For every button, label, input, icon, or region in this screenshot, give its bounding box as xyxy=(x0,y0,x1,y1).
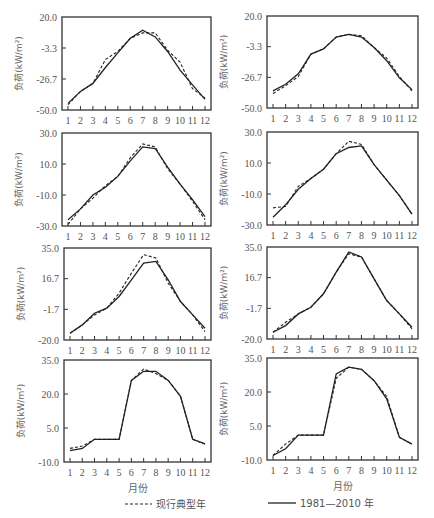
x-tick-label: 7 xyxy=(346,465,351,476)
series-typical-year xyxy=(70,369,205,448)
y-tick-label: -20.0 xyxy=(241,334,262,345)
x-tick-label: 3 xyxy=(296,113,301,124)
x-tick-label: 8 xyxy=(359,344,364,355)
x-tick-label: 12 xyxy=(200,115,210,126)
panel-row1-right: 20.0-3.3-26.7-50.0123456789101112负荷(kW/m… xyxy=(218,11,418,125)
x-tick-label: 6 xyxy=(128,231,133,242)
x-tick-label: 7 xyxy=(346,344,351,355)
y-tick-label: -30.0 xyxy=(241,220,262,231)
series-1981-2010 xyxy=(273,146,412,217)
y-tick-label: 16.7 xyxy=(245,272,263,283)
x-tick-label: 3 xyxy=(92,467,97,478)
x-tick-label: 12 xyxy=(407,344,417,355)
x-tick-label: 11 xyxy=(188,467,198,478)
x-tick-label: 7 xyxy=(141,467,146,478)
panel-row2-right: 30.010.0-10.0-30.0123456789101112负荷(kW/m… xyxy=(218,127,418,242)
y-tick-label: 5.0 xyxy=(250,421,263,432)
y-tick-label: -26.7 xyxy=(36,74,57,85)
x-tick-label: 8 xyxy=(153,115,158,126)
y-tick-label: -10.0 xyxy=(38,457,59,468)
x-tick-label: 4 xyxy=(308,344,313,355)
panel-row4-right: 35.020.05.0-10.0123456789101112负荷(kW/m²)… xyxy=(218,353,418,493)
x-tick-label: 7 xyxy=(140,115,145,126)
x-tick-label: 5 xyxy=(117,467,122,478)
x-tick-label: 2 xyxy=(80,345,85,356)
x-tick-label: 9 xyxy=(165,115,170,126)
y-tick-label: 30.0 xyxy=(40,128,58,139)
x-tick-label: 8 xyxy=(153,467,158,478)
y-tick-label: 20.0 xyxy=(40,12,58,23)
y-tick-label: -1.7 xyxy=(246,303,262,314)
x-tick-label: 6 xyxy=(334,465,339,476)
x-tick-label: 1 xyxy=(66,115,71,126)
x-tick-label: 12 xyxy=(200,467,210,478)
y-tick-label: -30.0 xyxy=(36,221,57,232)
x-tick-label: 5 xyxy=(321,230,326,241)
x-tick-label: 7 xyxy=(140,231,145,242)
y-tick-label: -10.0 xyxy=(241,189,262,200)
x-tick-label: 2 xyxy=(283,465,288,476)
legend-dashed-label: 现行典型年 xyxy=(156,498,206,510)
x-tick-label: 12 xyxy=(407,465,417,476)
plot-frame xyxy=(267,132,418,225)
x-tick-label: 11 xyxy=(395,344,405,355)
x-tick-label: 1 xyxy=(271,230,276,241)
x-tick-label: 5 xyxy=(321,465,326,476)
x-tick-label: 9 xyxy=(166,467,171,478)
legend-solid-label: 1981—2010 年 xyxy=(300,497,374,509)
x-tick-label: 1 xyxy=(68,467,73,478)
series-typical-year xyxy=(68,33,205,105)
x-tick-label: 5 xyxy=(115,115,120,126)
x-tick-label: 9 xyxy=(165,231,170,242)
x-tick-label: 7 xyxy=(346,230,351,241)
x-tick-label: 6 xyxy=(129,467,134,478)
x-tick-label: 8 xyxy=(153,345,158,356)
y-axis-title: 负荷(kW/m²) xyxy=(15,267,26,322)
series-typical-year xyxy=(68,144,205,225)
y-axis-title: 负荷(kW/m²) xyxy=(218,151,229,206)
series-typical-year xyxy=(273,141,412,214)
x-tick-label: 12 xyxy=(407,230,417,241)
y-tick-label: -50.0 xyxy=(241,103,262,114)
x-tick-label: 12 xyxy=(200,231,210,242)
plot-frame xyxy=(62,17,211,110)
x-tick-label: 6 xyxy=(128,115,133,126)
x-tick-label: 7 xyxy=(346,113,351,124)
x-tick-label: 10 xyxy=(382,465,392,476)
y-axis-title: 负荷(kW/m²) xyxy=(218,266,229,321)
x-tick-label: 11 xyxy=(395,230,405,241)
x-tick-label: 1 xyxy=(68,345,73,356)
y-tick-label: 16.7 xyxy=(42,273,60,284)
x-tick-label: 4 xyxy=(104,467,109,478)
x-tick-label: 9 xyxy=(372,113,377,124)
x-tick-label: 3 xyxy=(92,345,97,356)
y-tick-label: -20.0 xyxy=(38,335,59,346)
x-tick-label: 2 xyxy=(78,115,83,126)
series-typical-year xyxy=(70,255,205,334)
x-tick-label: 1 xyxy=(271,344,276,355)
x-tick-label: 11 xyxy=(188,231,198,242)
y-tick-label: 35.0 xyxy=(42,243,60,254)
x-tick-label: 9 xyxy=(166,345,171,356)
y-tick-label: -10.0 xyxy=(241,455,262,466)
y-axis-title: 负荷(kW/m²) xyxy=(15,384,26,439)
y-tick-label: -1.7 xyxy=(43,304,59,315)
x-tick-label: 5 xyxy=(115,231,120,242)
x-tick-label: 2 xyxy=(283,344,288,355)
y-tick-label: 35.0 xyxy=(42,355,60,366)
series-1981-2010 xyxy=(273,252,412,332)
x-tick-label: 10 xyxy=(175,467,185,478)
y-axis-title: 负荷(kW/m²) xyxy=(13,36,24,91)
chart-grid: 20.0-3.3-26.7-50.0123456789101112负荷(kW/m… xyxy=(0,0,434,518)
y-axis-title: 负荷(kW/m²) xyxy=(13,152,24,207)
x-tick-label: 4 xyxy=(104,345,109,356)
x-tick-label: 3 xyxy=(296,230,301,241)
panel-row4-left: 35.020.05.0-10.0123456789101112负荷(kW/m²)… xyxy=(15,355,211,495)
y-tick-label: 10.0 xyxy=(40,159,58,170)
x-tick-label: 11 xyxy=(188,345,198,356)
x-tick-label: 4 xyxy=(308,113,313,124)
x-tick-label: 10 xyxy=(175,231,185,242)
y-tick-label: 10.0 xyxy=(245,158,263,169)
x-tick-label: 6 xyxy=(334,344,339,355)
x-tick-label: 3 xyxy=(90,231,95,242)
